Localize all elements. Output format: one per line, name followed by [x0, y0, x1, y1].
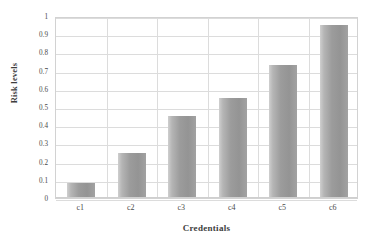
x-axis-tick-label: c5	[257, 203, 308, 212]
bar-slot	[56, 18, 107, 198]
y-axis-tick-label: 0.7	[39, 68, 48, 76]
bar[interactable]	[168, 116, 196, 198]
bar-chart: Risk levels 10.90.80.70.60.50.40.30.20.1…	[0, 0, 373, 241]
y-axis-tick-label: 0.4	[39, 122, 48, 130]
x-axis-tick-label: c6	[308, 203, 359, 212]
bar-slot	[309, 18, 360, 198]
axis-baseline	[56, 197, 357, 198]
y-axis-tick-label: 0.3	[39, 140, 48, 148]
y-axis-tick-label: 0.6	[39, 86, 48, 94]
y-axis-tick-label: 0.5	[39, 104, 48, 112]
bar[interactable]	[67, 183, 95, 198]
bar-slot	[208, 18, 259, 198]
bar-slot	[258, 18, 309, 198]
y-axis-tick-label: 1	[44, 13, 48, 21]
y-axis-tick-labels: 10.90.80.70.60.50.40.30.20.10	[0, 17, 52, 199]
bar[interactable]	[269, 65, 297, 198]
x-axis-tick-label: c4	[207, 203, 258, 212]
gridline	[56, 200, 357, 201]
bar[interactable]	[118, 153, 146, 198]
x-axis-tick-label: c2	[106, 203, 157, 212]
bar-slot	[107, 18, 158, 198]
x-axis-tick-label: c1	[55, 203, 106, 212]
y-axis-tick-label: 0	[44, 195, 48, 203]
x-axis-title: Credentials	[55, 223, 358, 233]
plot-area	[55, 17, 358, 199]
bar-series	[56, 18, 357, 198]
y-axis-tick-label: 0.2	[39, 159, 48, 167]
x-axis-tick-label: c3	[156, 203, 207, 212]
bar[interactable]	[219, 98, 247, 198]
y-axis-tick-label: 0.1	[39, 177, 48, 185]
bar[interactable]	[320, 25, 348, 198]
y-axis-tick-label: 0.8	[39, 49, 48, 57]
y-axis-tick-label: 0.9	[39, 31, 48, 39]
bar-slot	[157, 18, 208, 198]
